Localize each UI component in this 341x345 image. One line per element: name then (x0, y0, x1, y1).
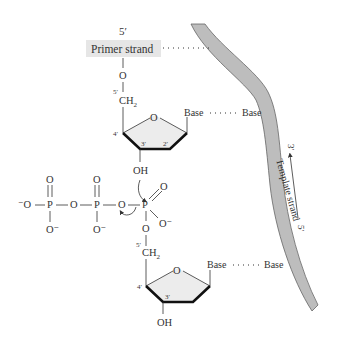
dbl-o-beta: O (93, 174, 101, 185)
lower-3prime-oh: OH (157, 317, 173, 328)
upper-base: Base (184, 107, 204, 118)
upper-ch2: CH2 (119, 95, 138, 109)
terminal-o-minus: ⁻O (18, 199, 32, 210)
dna-polymerization-diagram: Template strand 3′ 5′ 5′ Primer strand O… (0, 0, 341, 345)
lower-base: Base (207, 259, 227, 270)
ester-o: O (142, 223, 150, 234)
o-minus-gamma: O⁻ (46, 224, 59, 235)
template-5prime-label: 5′ (296, 225, 306, 232)
upper-c2: 2′ (163, 140, 169, 148)
primer-5prime-label: 5′ (119, 25, 127, 37)
dbl-o-alpha: O (160, 181, 168, 192)
lower-pair-base: Base (264, 259, 284, 270)
upper-c3: 3′ (141, 140, 147, 148)
primer-strand-label: Primer strand (91, 43, 154, 55)
upper-c4: 4′ (113, 130, 119, 138)
attack-arrow (138, 180, 145, 201)
phosphorus-alpha: P (142, 199, 148, 210)
lower-5prime: 5′ (136, 241, 142, 249)
phosphorus-beta: P (94, 199, 100, 210)
upper-5prime: 5′ (113, 88, 119, 96)
lower-ring-o: O (173, 265, 181, 276)
o-minus-alpha: O⁻ (159, 218, 172, 229)
lower-c3: 3′ (165, 293, 171, 301)
bridge-o1: O (70, 199, 78, 210)
phosphorus-gamma: P (47, 199, 53, 210)
lower-ch2: CH2 (142, 247, 161, 261)
bridge-o2: O (118, 199, 126, 210)
template-3prime-label: 3′ (286, 144, 296, 151)
upper-3prime-oh: OH (133, 165, 149, 176)
lower-c4: 4′ (137, 283, 143, 291)
upper-pair-base: Base (242, 107, 262, 118)
dbl-o-gamma: O (46, 174, 54, 185)
upper-o-link: O (119, 70, 127, 81)
o-minus-beta: O⁻ (93, 224, 106, 235)
upper-ring-o: O (150, 112, 158, 123)
